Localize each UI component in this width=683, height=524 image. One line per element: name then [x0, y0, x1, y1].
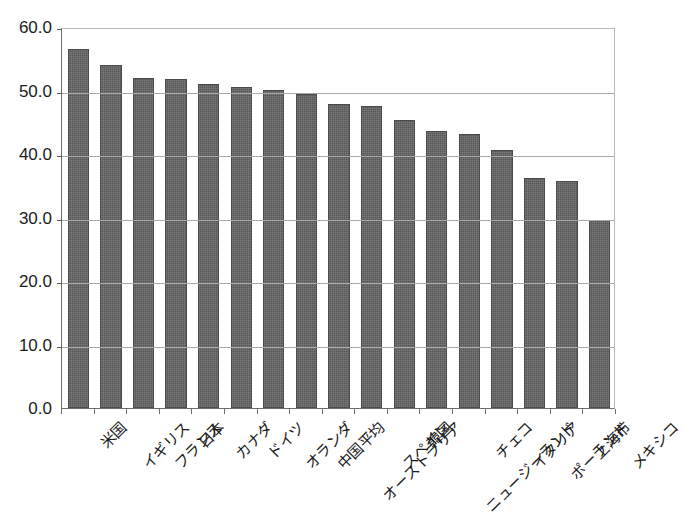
y-axis-tick-label: 30.0: [19, 209, 52, 229]
bar: [263, 90, 284, 408]
bar: [556, 181, 577, 408]
y-axis-tick-mark: [57, 220, 62, 221]
gridline: [62, 156, 614, 157]
y-axis-tick-label: 20.0: [19, 272, 52, 292]
gridline: [62, 283, 614, 284]
bar: [296, 94, 317, 408]
plot-area: [61, 28, 615, 409]
bar: [491, 150, 512, 408]
x-axis-tick-label: 米国: [95, 416, 131, 452]
bar: [165, 79, 186, 408]
gridline: [62, 93, 614, 94]
y-axis-tick-label: 50.0: [19, 82, 52, 102]
x-axis-tick-labels: 米国イギリスフランス日本カナダドイツオランダ中国平均オーストラリアスペイン韓国ニ…: [0, 409, 634, 524]
y-axis-tick-mark: [57, 29, 62, 30]
bar: [589, 220, 610, 408]
bar: [459, 134, 480, 408]
bar: [394, 120, 415, 408]
bar: [100, 65, 121, 408]
y-axis-tick-mark: [57, 156, 62, 157]
gridline: [62, 220, 614, 221]
y-axis-tick-mark: [57, 283, 62, 284]
bar: [361, 106, 382, 408]
y-axis-tick-mark: [57, 347, 62, 348]
y-axis-tick-mark: [57, 93, 62, 94]
bar: [133, 78, 154, 408]
y-axis-tick-label: 60.0: [19, 18, 52, 38]
gridline: [62, 347, 614, 348]
bar: [524, 178, 545, 409]
bar-series: [62, 29, 614, 408]
bar: [426, 131, 447, 408]
x-axis-tick-label: メキシコ: [625, 416, 682, 473]
bar: [328, 104, 349, 408]
bar: [198, 84, 219, 408]
y-axis-tick-label: 40.0: [19, 145, 52, 165]
bar: [68, 49, 89, 408]
y-axis-tick-label: 10.0: [19, 336, 52, 356]
bar: [231, 87, 252, 408]
